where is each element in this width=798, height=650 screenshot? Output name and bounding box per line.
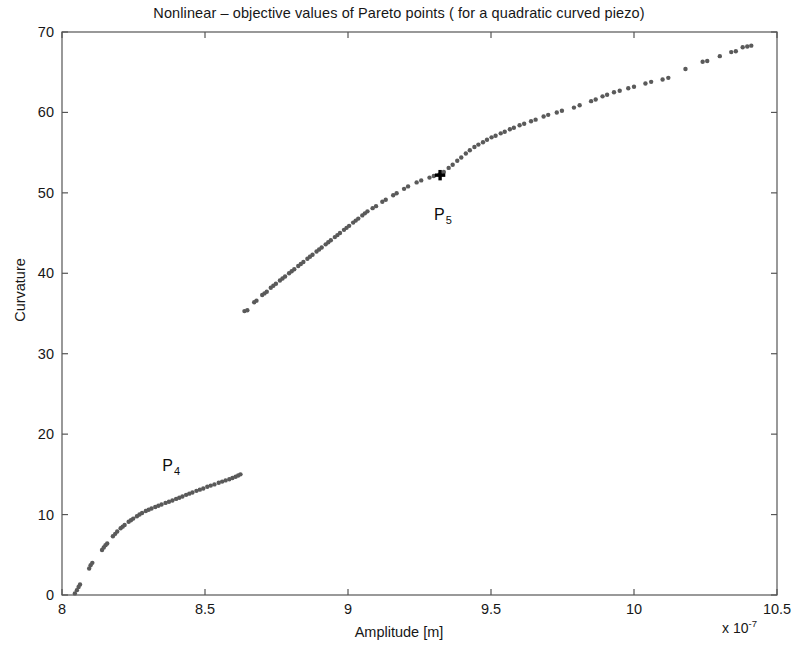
x-tick-label: 8.5 [195, 601, 215, 617]
axis-ticks [62, 32, 777, 595]
y-tick-label: 10 [4, 507, 54, 523]
annotation-P4: P4 [162, 457, 179, 475]
data-series [73, 43, 754, 595]
annotation-P5: P5 [434, 206, 451, 224]
x-tick-label: 9.5 [481, 601, 501, 617]
series-lower-pareto-branch [73, 472, 243, 595]
y-axis-label: Curvature [12, 230, 28, 350]
x-tick-label: 9 [344, 601, 352, 617]
x-tick-label: 8 [58, 601, 66, 617]
figure-canvas: Nonlinear – objective values of Pareto p… [0, 0, 798, 650]
x-axis-exponent-power: -7 [748, 618, 756, 629]
y-tick-label: 20 [4, 426, 54, 442]
annotation-P5-subscript: 5 [446, 214, 452, 226]
x-axis-exponent-base: x 10 [722, 620, 748, 636]
y-tick-label: 0 [4, 587, 54, 603]
y-tick-label: 50 [4, 185, 54, 201]
x-tick-label: 10.5 [763, 601, 791, 617]
x-axis-exponent: x 10-7 [722, 620, 757, 636]
annotation-P4-label: P [162, 457, 173, 474]
x-axis-label: Amplitude [m] [0, 624, 798, 640]
x-tick-label: 10 [626, 601, 642, 617]
annotation-P5-label: P [434, 206, 445, 223]
plot-area [0, 0, 798, 650]
y-tick-label: 60 [4, 104, 54, 120]
axes-frame [62, 32, 777, 595]
y-tick-label: 70 [4, 24, 54, 40]
series-upper-pareto-branch [242, 43, 753, 313]
annotation-P4-subscript: 4 [174, 465, 180, 477]
